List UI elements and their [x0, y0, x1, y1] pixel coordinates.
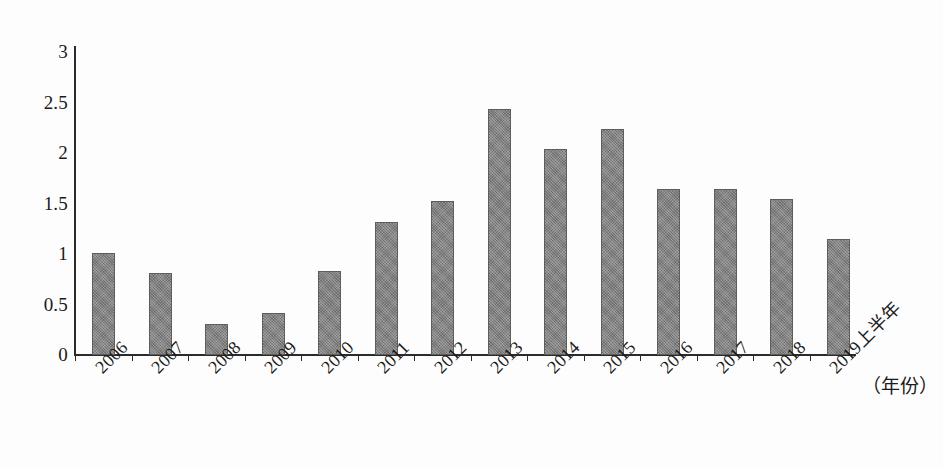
- x-tick-label-2015: 2015: [600, 338, 639, 377]
- x-tick-mark: [640, 356, 641, 361]
- bar-chart: 00.511.522.53 20062007200820092010201120…: [0, 0, 943, 468]
- x-tick-mark: [527, 356, 528, 361]
- x-tick-mark: [245, 356, 246, 361]
- x-axis-title: （年份）: [862, 377, 938, 396]
- x-tick-label-2008: 2008: [205, 338, 244, 377]
- x-tick-label-2017: 2017: [713, 338, 752, 377]
- x-tick-label-2012: 2012: [431, 338, 470, 377]
- x-tick-mark: [301, 356, 302, 361]
- x-tick-label-2016: 2016: [657, 338, 696, 377]
- x-tick-label-2014: 2014: [544, 338, 583, 377]
- x-tick-label-2007: 2007: [148, 338, 187, 377]
- x-tick-mark: [132, 356, 133, 361]
- x-tick-mark: [584, 356, 585, 361]
- x-tick-label-2009: 2009: [261, 338, 300, 377]
- x-tick-label-2018: 2018: [770, 338, 809, 377]
- x-tick-label-2010: 2010: [318, 338, 357, 377]
- x-tick-mark: [358, 356, 359, 361]
- x-tick-mark: [471, 356, 472, 361]
- x-tick-mark: [188, 356, 189, 361]
- x-tick-mark: [697, 356, 698, 361]
- x-tick-mark: [753, 356, 754, 361]
- x-tick-label-2011: 2011: [374, 338, 413, 377]
- x-axis-tick-labels: 2006200720082009201020112012201320142015…: [0, 0, 943, 468]
- x-tick-mark: [414, 356, 415, 361]
- x-tick-label-2019上半年: 2019上半年: [826, 299, 904, 377]
- x-tick-mark: [810, 356, 811, 361]
- x-tick-label-2013: 2013: [487, 338, 526, 377]
- x-tick-mark: [75, 356, 76, 361]
- x-tick-label-2006: 2006: [92, 338, 131, 377]
